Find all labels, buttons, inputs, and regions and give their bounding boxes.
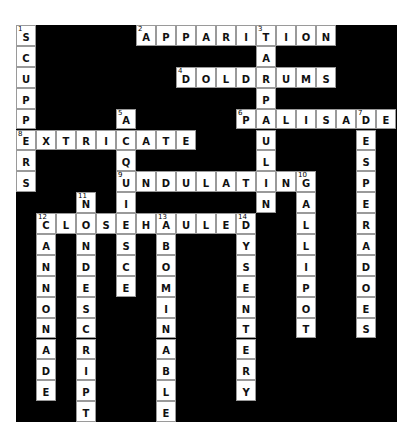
grid-cell[interactable]: S xyxy=(96,213,116,234)
grid-cell[interactable]: 9U xyxy=(116,171,136,192)
grid-cell[interactable]: M xyxy=(156,276,176,297)
grid-cell[interactable]: 5A xyxy=(116,109,136,130)
grid-cell[interactable]: 8E xyxy=(16,130,36,151)
grid-cell[interactable]: S xyxy=(16,171,36,192)
grid-cell[interactable]: S xyxy=(236,255,256,276)
grid-cell[interactable]: T xyxy=(296,318,316,339)
grid-cell[interactable]: S xyxy=(356,318,376,339)
grid-cell[interactable]: N xyxy=(36,318,56,339)
grid-cell[interactable]: C xyxy=(116,255,136,276)
grid-cell[interactable]: B xyxy=(156,234,176,255)
grid-cell[interactable]: L xyxy=(196,171,216,192)
grid-cell[interactable]: P xyxy=(256,88,276,109)
grid-cell[interactable]: S xyxy=(356,150,376,171)
grid-cell[interactable]: U xyxy=(176,171,196,192)
grid-cell[interactable]: E xyxy=(36,380,56,401)
grid-cell[interactable]: D xyxy=(356,255,376,276)
grid-cell[interactable]: A xyxy=(216,171,236,192)
grid-cell[interactable]: A xyxy=(136,130,156,151)
grid-cell[interactable]: O xyxy=(356,276,376,297)
grid-cell[interactable]: U xyxy=(276,67,296,88)
grid-cell[interactable]: T xyxy=(156,130,176,151)
grid-cell[interactable]: N xyxy=(276,171,296,192)
grid-cell[interactable]: R xyxy=(76,130,96,151)
grid-cell[interactable]: N xyxy=(136,171,156,192)
grid-cell[interactable]: A xyxy=(256,109,276,130)
grid-cell[interactable]: Q xyxy=(116,150,136,171)
grid-cell[interactable]: O xyxy=(156,255,176,276)
grid-cell[interactable]: A xyxy=(336,109,356,130)
grid-cell[interactable]: E xyxy=(356,130,376,151)
grid-cell[interactable]: N xyxy=(316,25,336,46)
grid-cell[interactable]: R xyxy=(256,67,276,88)
grid-cell[interactable]: C xyxy=(76,318,96,339)
grid-cell[interactable]: T xyxy=(76,401,96,422)
grid-cell[interactable]: A xyxy=(296,192,316,213)
grid-cell[interactable]: P xyxy=(16,109,36,130)
grid-cell[interactable]: E xyxy=(236,276,256,297)
grid-cell[interactable]: 11N xyxy=(76,192,96,213)
grid-cell[interactable]: T xyxy=(236,318,256,339)
grid-cell[interactable]: O xyxy=(296,297,316,318)
grid-cell[interactable]: H xyxy=(136,213,156,234)
grid-cell[interactable]: 2A xyxy=(136,25,156,46)
grid-cell[interactable]: E xyxy=(156,401,176,422)
grid-cell[interactable]: C xyxy=(116,130,136,151)
grid-cell[interactable]: D xyxy=(36,359,56,380)
grid-cell[interactable]: I xyxy=(76,359,96,380)
grid-cell[interactable]: R xyxy=(16,150,36,171)
grid-cell[interactable]: L xyxy=(216,67,236,88)
grid-cell[interactable]: U xyxy=(16,67,36,88)
grid-cell[interactable]: O xyxy=(36,297,56,318)
grid-cell[interactable]: O xyxy=(196,67,216,88)
grid-cell[interactable]: 14D xyxy=(236,213,256,234)
grid-cell[interactable]: A xyxy=(356,234,376,255)
grid-cell[interactable]: L xyxy=(296,213,316,234)
grid-cell[interactable]: E xyxy=(356,297,376,318)
grid-cell[interactable]: E xyxy=(116,276,136,297)
grid-cell[interactable]: 4D xyxy=(176,67,196,88)
grid-cell[interactable]: L xyxy=(56,213,76,234)
grid-cell[interactable]: T xyxy=(236,171,256,192)
grid-cell[interactable]: S xyxy=(116,234,136,255)
grid-cell[interactable]: D xyxy=(156,171,176,192)
grid-cell[interactable]: Y xyxy=(236,234,256,255)
grid-cell[interactable]: L xyxy=(156,380,176,401)
grid-cell[interactable]: P xyxy=(176,25,196,46)
grid-cell[interactable]: P xyxy=(16,88,36,109)
grid-cell[interactable]: I xyxy=(96,130,116,151)
grid-cell[interactable]: A xyxy=(256,46,276,67)
grid-cell[interactable]: U xyxy=(256,130,276,151)
grid-cell[interactable]: A xyxy=(156,339,176,360)
grid-cell[interactable]: I xyxy=(156,297,176,318)
grid-cell[interactable]: D xyxy=(236,67,256,88)
grid-cell[interactable]: I xyxy=(296,109,316,130)
grid-cell[interactable]: A xyxy=(36,234,56,255)
grid-cell[interactable]: E xyxy=(236,339,256,360)
grid-cell[interactable]: 12C xyxy=(36,213,56,234)
grid-cell[interactable]: L xyxy=(196,213,216,234)
grid-cell[interactable]: S xyxy=(76,297,96,318)
grid-cell[interactable]: 3T xyxy=(256,25,276,46)
grid-cell[interactable]: R xyxy=(216,25,236,46)
grid-cell[interactable]: M xyxy=(296,67,316,88)
grid-cell[interactable]: L xyxy=(256,150,276,171)
grid-cell[interactable]: 13A xyxy=(156,213,176,234)
grid-cell[interactable]: P xyxy=(296,276,316,297)
grid-cell[interactable]: I xyxy=(256,171,276,192)
grid-cell[interactable]: 6P xyxy=(236,109,256,130)
grid-cell[interactable]: S xyxy=(316,109,336,130)
grid-cell[interactable]: S xyxy=(316,67,336,88)
grid-cell[interactable]: R xyxy=(236,359,256,380)
grid-cell[interactable]: T xyxy=(56,130,76,151)
grid-cell[interactable]: A xyxy=(36,339,56,360)
grid-cell[interactable]: N xyxy=(156,318,176,339)
grid-cell[interactable]: P xyxy=(356,171,376,192)
grid-cell[interactable]: L xyxy=(276,109,296,130)
grid-cell[interactable]: N xyxy=(36,276,56,297)
grid-cell[interactable]: X xyxy=(36,130,56,151)
grid-cell[interactable]: L xyxy=(296,234,316,255)
grid-cell[interactable]: E xyxy=(216,213,236,234)
grid-cell[interactable]: N xyxy=(36,255,56,276)
grid-cell[interactable]: R xyxy=(76,339,96,360)
